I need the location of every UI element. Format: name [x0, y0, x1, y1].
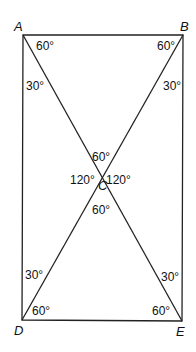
angle-c-bottom: 60° — [92, 203, 110, 217]
angle-c-right: 120° — [106, 173, 131, 187]
angle-c-left: 120° — [70, 173, 95, 187]
angle-b-side: 30° — [163, 79, 181, 93]
vertex-label-d: D — [14, 323, 23, 338]
angle-e-bottom: 60° — [152, 304, 170, 318]
angle-a-top: 60° — [36, 39, 54, 53]
angle-e-side: 30° — [161, 270, 179, 284]
angle-d-side: 30° — [25, 268, 43, 282]
vertex-label-a: A — [13, 19, 23, 34]
angle-b-top: 60° — [157, 39, 175, 53]
angle-a-side: 30° — [26, 79, 44, 93]
vertex-label-e: E — [176, 324, 185, 339]
rectangle-diagram: A B D E C 60° 30° 60° 30° 60° 120° 120° … — [0, 0, 196, 352]
vertex-label-b: B — [180, 19, 189, 34]
angle-d-bottom: 60° — [32, 304, 50, 318]
angle-c-top: 60° — [92, 150, 110, 164]
